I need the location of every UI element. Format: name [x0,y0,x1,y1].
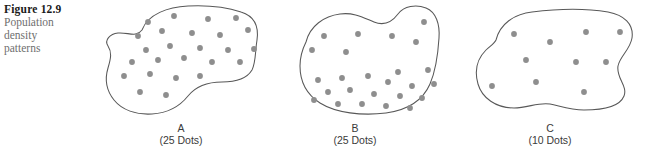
figure-caption: Figure 12.9 Population density patterns [4,3,100,56]
population-dot [251,46,257,52]
population-dot [121,73,127,79]
population-dot [395,69,401,75]
population-dot [359,101,365,107]
population-dot [511,31,517,37]
panel-letter-b: B [276,122,434,134]
panel-letter-c: C [452,122,648,134]
panel-label-block-c: C (10 Dots) [452,122,648,146]
population-dot [413,39,419,45]
population-dot [573,59,579,65]
population-density-diagram-a [96,0,266,120]
population-dot [135,33,141,39]
population-dot [343,49,349,55]
population-dot [245,27,251,33]
population-dot [237,59,243,65]
population-dot [205,16,211,22]
population-dot [489,83,495,89]
population-dot [581,89,587,95]
panel-dot-count-c: (10 Dots) [452,134,648,146]
panel-dot-count-a: (25 Dots) [96,134,266,146]
population-dot [145,19,151,25]
population-dot [181,55,187,61]
population-dot [583,29,589,35]
population-density-diagram-c [452,0,648,120]
region-outline-b [300,6,439,114]
panel-label-block-b: B (25 Dots) [276,122,434,146]
panel-label-block-a: A (25 Dots) [96,122,266,146]
population-dot [385,79,391,85]
population-dot [315,77,321,83]
population-dot [173,75,179,81]
population-dot [383,103,389,109]
population-dot [533,79,539,85]
figure-number: Figure 12.9 [4,3,100,16]
population-dot [217,32,223,38]
population-dot [389,33,395,39]
population-dot [311,97,317,103]
region-outline-c [476,9,632,110]
population-dot [371,91,377,97]
population-dot [419,95,425,101]
figure-panel-a: A (25 Dots) [96,0,266,120]
figure-description-line-2: density [4,29,100,42]
population-dot [189,30,195,36]
population-density-diagram-b [276,0,446,120]
population-dot [409,83,415,89]
population-dot [163,92,169,98]
population-dot [425,67,431,73]
population-dot [143,47,149,53]
population-dot [147,71,153,77]
population-dot [197,73,203,79]
population-dot [603,59,609,65]
figure-description-line-3: patterns [4,42,100,55]
population-dot [321,33,327,39]
population-dot [197,45,203,51]
population-dot [209,59,215,65]
population-dot [421,19,427,25]
figure-description: Population density patterns [4,16,100,56]
figure-panel-c: C (10 Dots) [452,0,648,120]
population-dot [155,57,161,63]
population-dot [159,28,165,34]
population-dot [225,47,231,53]
figure-panel-b: B (25 Dots) [276,0,434,120]
population-dot [355,31,361,37]
population-dot [137,89,143,95]
population-dot [431,81,437,87]
population-dot [617,29,623,35]
population-dot [347,87,353,93]
population-dot [309,47,315,53]
population-dot [547,39,553,45]
population-dot [233,15,239,21]
population-dot [325,89,331,95]
population-dot [167,43,173,49]
population-dot [171,13,177,19]
population-dot [129,59,135,65]
figure-description-line-1: Population [4,16,100,29]
population-dot [523,57,529,63]
population-dot [335,101,341,107]
panel-dot-count-b: (25 Dots) [276,134,434,146]
population-dot [339,75,345,81]
population-dot [365,73,371,79]
population-dot [397,93,403,99]
panel-letter-a: A [96,122,266,134]
population-dot [407,105,413,111]
